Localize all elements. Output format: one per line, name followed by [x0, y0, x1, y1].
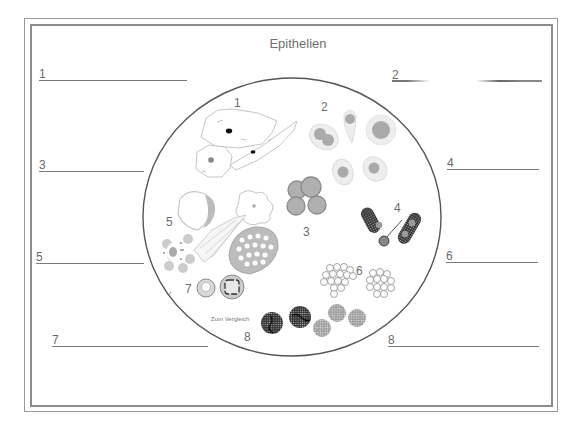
diagram-label-2: 2 [321, 101, 328, 113]
diagram-label-3: 3 [303, 226, 310, 238]
diagram-label-6: 6 [356, 265, 363, 277]
comparison-note: Zum Vergleich [211, 316, 249, 322]
epithelia-diagram [0, 0, 582, 433]
mixed-cells-illustration [162, 191, 278, 274]
diagram-label-5: 5 [166, 216, 173, 228]
round-nucleated-cells-illustration [305, 110, 396, 187]
squamous-cells-illustration [196, 109, 297, 177]
grey-cell-cluster-illustration [287, 177, 326, 215]
dotted-round-cells-illustration [261, 304, 366, 337]
ringed-cells-illustration [197, 275, 244, 299]
dark-elongated-cells-illustration [359, 205, 424, 246]
diagram-label-4: 4 [394, 202, 401, 214]
diagram-label-1: 1 [234, 97, 241, 109]
diagram-label-7: 7 [185, 283, 192, 295]
diagram-label-8: 8 [244, 331, 251, 343]
